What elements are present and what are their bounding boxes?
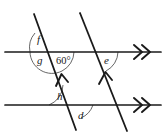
angle-arc-f [30, 33, 35, 52]
angle-label-g: g [37, 54, 43, 66]
horizontal-arrow-markers [134, 45, 150, 112]
geometry-figure: f g 60° e h d [0, 0, 167, 137]
right-transversal-line [80, 13, 127, 131]
angle-label-group: f g 60° e h d [37, 33, 109, 121]
angle-label-d: d [78, 109, 84, 121]
parallel-lines-group [5, 52, 161, 105]
geometry-svg-canvas: f g 60° e h d [0, 0, 167, 137]
angle-label-e: e [104, 54, 109, 66]
angle-label-h: h [57, 90, 63, 102]
single-chevron-icon-left [56, 74, 68, 86]
transversal-arrow-markers [56, 72, 112, 86]
angle-label-60: 60° [56, 55, 71, 66]
left-transversal-line [34, 14, 76, 130]
